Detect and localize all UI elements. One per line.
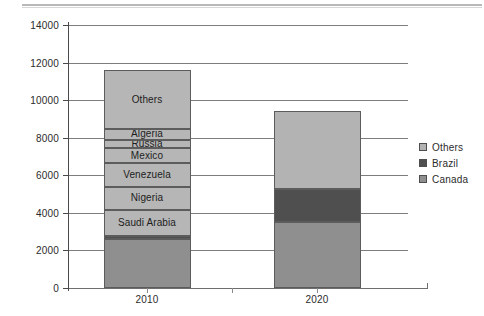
bar-segment-label: Mexico [131, 151, 163, 161]
x-axis-tick [317, 288, 318, 293]
legend-label: Others [432, 142, 463, 153]
bar-segment-algeria[interactable]: Algeria [104, 129, 191, 139]
legend-swatch-icon [419, 143, 427, 151]
bar-segment-nigeria[interactable]: Nigeria [104, 187, 191, 210]
bar-segment-brazil[interactable] [104, 236, 191, 239]
page-top-rule [22, 4, 482, 6]
legend-swatch-icon [419, 159, 427, 167]
bar-segment-venezuela[interactable]: Venezuela [104, 163, 191, 186]
bar-segment-saudi-arabia[interactable]: Saudi Arabia [104, 210, 191, 236]
y-axis-tick [63, 100, 69, 101]
x-axis-category-label: 2010 [135, 294, 158, 305]
bar-segment-others[interactable]: Others [104, 70, 191, 129]
page-top-rule-secondary [22, 7, 482, 8]
y-axis-tick-label: 4000 [36, 208, 59, 219]
legend-item-brazil[interactable]: Brazil [419, 155, 468, 171]
bar-segment-label: Venezuela [123, 170, 171, 180]
bar-segment-label: Saudi Arabia [118, 218, 176, 228]
y-axis-tick-label: 12000 [30, 58, 59, 69]
y-axis-tick [63, 250, 69, 251]
bar-segment-label: Others [132, 95, 163, 105]
bar-segment-others[interactable] [274, 111, 361, 189]
legend-label: Canada [432, 174, 468, 185]
chart-root: 02000400060008000100001200014000Saudi Ar… [0, 0, 484, 316]
y-axis-tick [63, 288, 69, 289]
bar-segment-brazil[interactable] [274, 189, 361, 222]
chart-legend: OthersBrazilCanada [419, 139, 468, 187]
x-axis-baseline [68, 288, 428, 289]
y-axis-tick-label: 6000 [36, 170, 59, 181]
bar-segment-label: Nigeria [131, 193, 163, 203]
y-axis-tick-label: 14000 [30, 20, 59, 31]
y-axis-tick-label: 0 [53, 283, 59, 294]
bar-2020[interactable] [274, 25, 361, 288]
legend-label: Brazil [432, 158, 458, 169]
y-axis-tick [63, 63, 69, 64]
x-axis-tick [147, 288, 148, 293]
x-axis-end-cap [427, 283, 428, 289]
y-axis-tick [63, 175, 69, 176]
y-axis-tick-label: 10000 [30, 95, 59, 106]
legend-item-others[interactable]: Others [419, 139, 468, 155]
bar-segment-mexico[interactable]: Mexico [104, 148, 191, 163]
bar-segment-label: Algeria [131, 129, 163, 139]
legend-item-canada[interactable]: Canada [419, 171, 468, 187]
bar-segment-canada[interactable] [274, 222, 361, 288]
x-axis-tick [232, 288, 233, 293]
y-axis-tick-label: 8000 [36, 133, 59, 144]
y-axis-tick-label: 2000 [36, 245, 59, 256]
y-axis-tick [63, 138, 69, 139]
bar-segment-russia[interactable]: Russia [104, 140, 191, 148]
plot-area: 02000400060008000100001200014000Saudi Ar… [68, 25, 408, 288]
y-axis-tick [63, 213, 69, 214]
x-axis-category-label: 2020 [305, 294, 328, 305]
legend-swatch-icon [419, 175, 427, 183]
bar-2010[interactable]: Saudi ArabiaNigeriaVenezuelaMexicoRussia… [104, 25, 191, 288]
bar-segment-label: Russia [131, 140, 162, 148]
bar-segment-canada[interactable] [104, 239, 191, 288]
y-axis-tick [63, 25, 69, 26]
